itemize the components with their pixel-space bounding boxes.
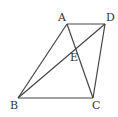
geometry-figure: A D B C E	[0, 0, 118, 117]
segment-dc	[93, 24, 105, 98]
segment-bd	[18, 24, 105, 98]
label-d: D	[106, 11, 115, 24]
quadrilateral-diagram: A D B C E	[0, 0, 118, 117]
label-c: C	[92, 99, 100, 112]
label-b: B	[10, 99, 18, 112]
label-a: A	[57, 11, 67, 24]
label-e: E	[70, 51, 78, 64]
segment-ab	[18, 24, 67, 98]
